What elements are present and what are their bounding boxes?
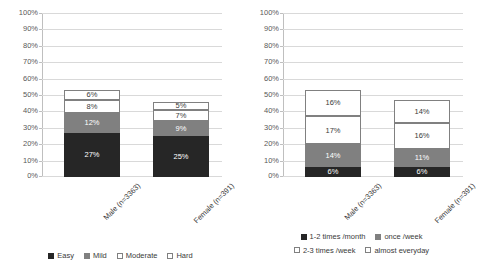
y-tick-label: 90% <box>264 26 279 34</box>
segment-almost-everyday[interactable]: 14% <box>394 100 450 123</box>
y-tick-label: 10% <box>264 157 279 165</box>
segment-once-week[interactable]: 14% <box>305 144 361 167</box>
figure-two-stacked-bar-charts: 100% 90% 80% 70% 60% 50% 40% 30% 20% 10%… <box>0 0 482 276</box>
y-tick-mark <box>280 176 283 177</box>
legend-item-easy[interactable]: Easy <box>48 252 74 260</box>
segment-mild[interactable]: 9% <box>153 121 209 136</box>
bar-female-right[interactable]: 14% 16% 11% 6% <box>394 100 450 177</box>
y-tick-mark <box>280 46 283 47</box>
legend-swatch-icon <box>375 234 381 240</box>
legend-item-almost-everyday[interactable]: almost everyday <box>365 247 429 255</box>
x-label-male: Male (n=3363) <box>102 182 142 222</box>
gridline <box>42 62 222 63</box>
legend-left: Easy Mild Moderate Hard <box>0 252 241 260</box>
segment-once-week[interactable]: 11% <box>394 149 450 167</box>
y-tick-label: 30% <box>264 124 279 132</box>
legend-label: Hard <box>176 252 192 260</box>
legend-item-hard[interactable]: Hard <box>167 252 192 260</box>
gridline <box>283 13 463 14</box>
segment-2-3-times-week[interactable]: 16% <box>394 123 450 149</box>
bar-female-left[interactable]: 5% 7% 9% 25% <box>153 102 209 177</box>
legend-swatch-icon <box>301 234 307 240</box>
y-tick-label: 60% <box>264 75 279 83</box>
gridline <box>283 79 463 80</box>
legend-swatch-icon <box>294 247 300 253</box>
legend-right: 1-2 times /month once /week 2-3 times /w… <box>241 233 482 254</box>
segment-hard[interactable]: 5% <box>153 102 209 110</box>
legend-item-1-2-times-month[interactable]: 1-2 times /month <box>301 233 366 241</box>
y-tick-mark <box>280 79 283 80</box>
y-tick-mark <box>39 29 42 30</box>
y-tick-label: 40% <box>264 108 279 116</box>
y-tick-label: 50% <box>264 91 279 99</box>
legend-item-2-3-times-week[interactable]: 2-3 times /week <box>294 247 356 255</box>
y-tick-label: 100% <box>19 9 38 17</box>
bar-male-right[interactable]: 16% 17% 14% 6% <box>305 90 361 177</box>
y-tick-label: 20% <box>23 140 38 148</box>
y-tick-label: 0% <box>27 172 38 180</box>
y-tick-mark <box>39 144 42 145</box>
y-tick-mark <box>39 128 42 129</box>
segment-2-3-times-week[interactable]: 17% <box>305 116 361 144</box>
gridline <box>283 46 463 47</box>
y-tick-mark <box>280 111 283 112</box>
segment-easy[interactable]: 25% <box>153 136 209 177</box>
legend-swatch-icon <box>84 253 90 259</box>
segment-easy[interactable]: 27% <box>64 133 120 177</box>
y-tick-label: 70% <box>23 58 38 66</box>
legend-item-once-week[interactable]: once /week <box>375 233 422 241</box>
y-tick-label: 20% <box>264 140 279 148</box>
chart-difficulty: 100% 90% 80% 70% 60% 50% 40% 30% 20% 10%… <box>0 0 241 276</box>
legend-row: 2-3 times /week almost everyday <box>241 247 482 255</box>
y-tick-mark <box>280 95 283 96</box>
y-tick-label: 80% <box>264 42 279 50</box>
segment-moderate[interactable]: 7% <box>153 110 209 121</box>
segment-moderate[interactable]: 8% <box>64 100 120 113</box>
y-tick-mark <box>39 13 42 14</box>
x-label-male: Male (n=3363) <box>343 182 383 222</box>
y-tick-mark <box>280 128 283 129</box>
y-tick-mark <box>280 13 283 14</box>
segment-1-2-times-month[interactable]: 6% <box>305 167 361 177</box>
y-tick-label: 0% <box>268 172 279 180</box>
legend-swatch-icon <box>167 253 173 259</box>
gridline <box>283 62 463 63</box>
legend-row: 1-2 times /month once /week <box>241 233 482 241</box>
y-tick-label: 50% <box>23 91 38 99</box>
plot-area-right: 100% 90% 80% 70% 60% 50% 40% 30% 20% 10%… <box>283 13 463 177</box>
segment-mild[interactable]: 12% <box>64 113 120 133</box>
legend-label: Moderate <box>126 252 158 260</box>
y-tick-mark <box>280 62 283 63</box>
bar-male-left[interactable]: 6% 8% 12% 27% <box>64 90 120 177</box>
gridline <box>42 79 222 80</box>
y-tick-mark <box>280 161 283 162</box>
legend-label: 1-2 times /month <box>310 233 366 241</box>
y-tick-mark <box>39 111 42 112</box>
legend-swatch-icon <box>365 247 371 253</box>
y-tick-label: 70% <box>264 58 279 66</box>
legend-item-mild[interactable]: Mild <box>84 252 107 260</box>
segment-1-2-times-month[interactable]: 6% <box>394 167 450 177</box>
legend-swatch-icon <box>117 253 123 259</box>
gridline <box>42 13 222 14</box>
y-tick-mark <box>280 29 283 30</box>
y-tick-mark <box>39 62 42 63</box>
legend-label: Easy <box>57 252 74 260</box>
gridline <box>42 29 222 30</box>
y-tick-label: 60% <box>23 75 38 83</box>
gridline <box>42 46 222 47</box>
y-tick-label: 90% <box>23 26 38 34</box>
legend-label: Mild <box>93 252 107 260</box>
legend-row: Easy Mild Moderate Hard <box>0 252 241 260</box>
y-tick-mark <box>39 46 42 47</box>
y-tick-mark <box>280 144 283 145</box>
y-tick-mark <box>39 79 42 80</box>
legend-label: once /week <box>384 233 422 241</box>
segment-almost-everyday[interactable]: 16% <box>305 90 361 116</box>
legend-item-moderate[interactable]: Moderate <box>117 252 158 260</box>
segment-hard[interactable]: 6% <box>64 90 120 100</box>
y-tick-label: 40% <box>23 108 38 116</box>
gridline <box>283 29 463 30</box>
legend-label: almost everyday <box>374 247 429 255</box>
y-tick-label: 100% <box>260 9 279 17</box>
